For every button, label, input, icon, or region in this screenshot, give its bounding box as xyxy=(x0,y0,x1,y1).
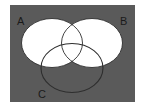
set-c-label: C xyxy=(38,88,46,100)
set-a-label: A xyxy=(17,15,25,27)
venn-diagram: A B C xyxy=(0,0,142,110)
set-b-label: B xyxy=(120,15,127,27)
